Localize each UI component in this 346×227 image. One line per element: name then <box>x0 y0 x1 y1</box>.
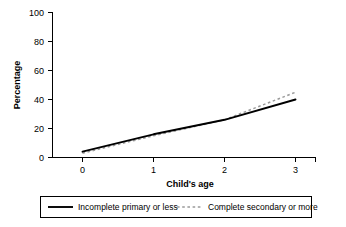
series-line-incomplete-primary-or-less <box>83 100 296 152</box>
legend-label-complete-secondary-or-more: Complete secondary or more <box>208 202 318 212</box>
x-tick-label-3: 3 <box>293 165 298 175</box>
y-tick-label-20: 20 <box>34 124 44 134</box>
y-axis-title: Percentage <box>12 61 22 110</box>
x-tick-label-0: 0 <box>80 165 85 175</box>
y-tick-label-100: 100 <box>29 8 44 18</box>
y-tick-label-60: 60 <box>34 66 44 76</box>
x-axis-title: Child's age <box>166 179 214 189</box>
x-tick-label-1: 1 <box>151 165 156 175</box>
y-tick-label-40: 40 <box>34 95 44 105</box>
y-tick-label-0: 0 <box>39 153 44 163</box>
legend-label-incomplete-primary-or-less: Incomplete primary or less <box>78 202 178 212</box>
line-chart: 100 80 60 40 20 0 Percentage 0 1 2 3 Chi… <box>0 0 346 227</box>
chart-figure: 100 80 60 40 20 0 Percentage 0 1 2 3 Chi… <box>0 0 346 227</box>
legend: Incomplete primary or less Complete seco… <box>41 197 318 218</box>
y-tick-label-80: 80 <box>34 37 44 47</box>
x-tick-label-2: 2 <box>222 165 227 175</box>
